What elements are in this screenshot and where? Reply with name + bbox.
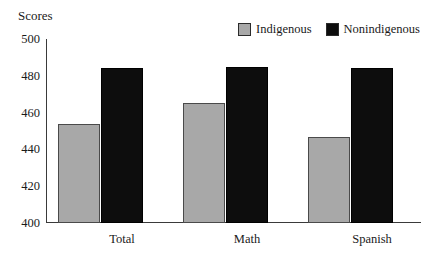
y-axis-tick-label: 500: [21, 33, 40, 46]
legend-label-indigenous: Indigenous: [256, 23, 312, 36]
x-axis-tick-label: Spanish: [352, 232, 392, 246]
legend-entry-indigenous: Indigenous: [238, 23, 312, 36]
bar-total-indigenous: [58, 124, 100, 223]
y-axis-line: [46, 39, 47, 223]
x-axis-tick-label: Total: [109, 232, 135, 246]
legend-entry-nonindigenous: Nonindigenous: [326, 23, 420, 36]
bar-spanish-indigenous: [308, 137, 350, 223]
y-axis-tick-label: 460: [21, 106, 40, 119]
y-axis-tick-label: 400: [21, 217, 40, 230]
bar-total-nonindigenous: [101, 68, 143, 223]
bar-math-indigenous: [183, 103, 225, 223]
plot-area: 400420440460480500TotalMathSpanish: [46, 39, 421, 223]
y-axis-tick-label: 440: [21, 143, 40, 156]
gray-swatch-icon: [238, 23, 251, 36]
y-axis-title: Scores: [18, 8, 53, 23]
x-axis-tick-label: Math: [234, 232, 260, 246]
legend-label-nonindigenous: Nonindigenous: [344, 23, 420, 36]
bar-spanish-nonindigenous: [351, 68, 393, 223]
bar-chart-figure: Scores Indigenous Nonindigenous 40042044…: [0, 0, 429, 262]
black-swatch-icon: [326, 23, 339, 36]
bar-math-nonindigenous: [226, 67, 268, 223]
chart-legend: Indigenous Nonindigenous: [238, 23, 420, 36]
y-axis-tick-label: 420: [21, 180, 40, 193]
y-axis-tick-label: 480: [21, 69, 40, 82]
